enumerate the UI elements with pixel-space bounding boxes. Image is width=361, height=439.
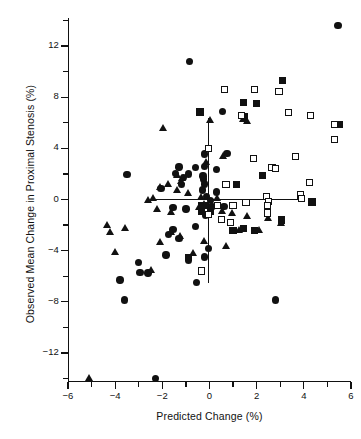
y-tick-major	[61, 45, 68, 46]
data-point-open-square	[222, 181, 229, 188]
y-axis-title: Observed Mean Change in Proximal Stenosi…	[24, 14, 36, 394]
data-point-open-square	[205, 211, 212, 218]
data-point-filled-circle	[162, 251, 169, 258]
data-point-filled-circle	[272, 296, 279, 303]
x-tick-label: 0	[195, 390, 225, 401]
data-point-filled-triangle	[147, 266, 155, 273]
data-point-filled-triangle	[167, 208, 175, 215]
data-point-filled-triangle	[197, 193, 205, 200]
data-point-filled-triangle	[153, 205, 161, 212]
data-point-filled-circle	[334, 22, 341, 29]
data-point-filled-square	[233, 181, 240, 188]
x-tick-label: 2	[242, 390, 272, 401]
x-tick-minor	[327, 382, 328, 387]
data-point-filled-triangle	[176, 232, 184, 239]
data-point-filled-square	[253, 100, 260, 107]
y-tick-major	[61, 148, 68, 149]
data-point-filled-triangle	[184, 189, 192, 196]
data-point-filled-triangle	[103, 221, 111, 228]
data-point-open-square	[272, 165, 279, 172]
x-tick-major	[67, 382, 68, 389]
data-point-filled-circle	[182, 205, 189, 212]
data-point-open-square	[306, 179, 313, 186]
data-point-open-square	[214, 202, 221, 209]
data-point-filled-square	[251, 227, 258, 234]
data-point-filled-square	[278, 216, 285, 223]
data-point-filled-triangle	[85, 374, 93, 381]
data-point-open-square	[264, 209, 271, 216]
data-point-open-square	[331, 136, 338, 143]
data-point-filled-circle	[152, 375, 159, 382]
data-point-open-square	[275, 88, 282, 95]
x-tick-minor	[91, 382, 92, 387]
data-point-open-square	[298, 195, 305, 202]
data-point-filled-circle	[193, 279, 200, 286]
data-point-filled-circle	[219, 108, 226, 115]
data-point-open-square	[250, 155, 257, 162]
x-tick-major	[350, 382, 351, 389]
data-point-filled-square	[279, 77, 286, 84]
data-point-filled-circle	[186, 58, 193, 65]
data-point-filled-triangle	[167, 228, 175, 235]
x-tick-minor	[138, 382, 139, 387]
data-point-open-square	[218, 216, 225, 223]
x-tick-minor	[232, 382, 233, 387]
data-point-filled-square	[240, 99, 247, 106]
x-tick-major	[162, 382, 163, 389]
data-point-filled-square	[240, 225, 247, 232]
data-point-filled-circle	[192, 223, 199, 230]
y-axis-line	[68, 18, 69, 382]
data-point-filled-triangle	[206, 116, 214, 123]
data-point-filled-circle	[205, 245, 212, 252]
x-tick-minor	[185, 382, 186, 387]
data-point-filled-square	[201, 202, 208, 209]
y-tick-major	[61, 250, 68, 251]
data-point-filled-triangle	[156, 183, 164, 190]
data-point-open-square	[205, 145, 212, 152]
data-point-open-square	[285, 109, 292, 116]
x-tick-label: 4	[289, 390, 319, 401]
y-tick-major	[61, 352, 68, 353]
data-point-filled-square	[229, 227, 236, 234]
data-point-filled-triangle	[164, 180, 172, 187]
data-point-filled-circle	[121, 296, 128, 303]
data-point-filled-square	[196, 108, 203, 115]
x-axis-title: Predicted Change (%)	[68, 410, 351, 422]
y-tick-minor	[63, 71, 68, 72]
data-point-filled-triangle	[177, 177, 185, 184]
x-tick-major	[256, 382, 257, 389]
x-tick-label: 6	[336, 390, 361, 401]
data-point-filled-circle	[213, 166, 220, 173]
data-point-filled-triangle	[222, 242, 230, 249]
data-point-filled-square	[308, 198, 315, 205]
data-point-filled-triangle	[202, 158, 210, 165]
data-point-filled-triangle	[144, 196, 152, 203]
data-point-open-square	[331, 121, 338, 128]
y-tick-major	[61, 97, 68, 98]
y-tick-minor	[63, 276, 68, 277]
data-point-filled-circle	[199, 172, 206, 179]
data-point-filled-triangle	[159, 124, 167, 131]
y-tick-minor	[63, 378, 68, 379]
data-point-filled-triangle	[106, 228, 114, 235]
data-point-filled-triangle	[219, 152, 227, 159]
data-point-filled-triangle	[173, 186, 181, 193]
data-point-open-square	[242, 199, 249, 206]
data-point-filled-circle	[123, 171, 130, 178]
data-point-filled-square	[185, 254, 192, 261]
data-point-filled-triangle	[121, 224, 129, 231]
data-point-filled-triangle	[213, 194, 221, 201]
data-point-open-square	[221, 86, 228, 93]
data-point-filled-triangle	[200, 237, 208, 244]
data-point-open-square	[198, 267, 205, 274]
data-point-filled-triangle	[228, 209, 236, 216]
data-point-filled-triangle	[156, 238, 164, 245]
y-tick-minor	[63, 327, 68, 328]
data-point-open-square	[227, 219, 234, 226]
data-point-open-square	[292, 153, 299, 160]
y-tick-minor	[63, 20, 68, 21]
x-tick-label: −2	[147, 390, 177, 401]
data-point-filled-circle	[136, 269, 143, 276]
data-point-open-square	[229, 202, 236, 209]
reference-line-horizontal	[151, 199, 304, 200]
